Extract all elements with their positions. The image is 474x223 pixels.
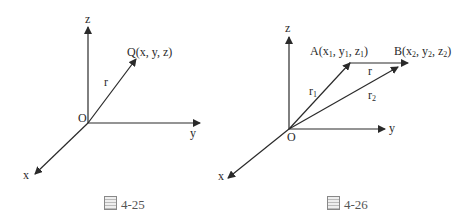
y-axis-label: y bbox=[190, 127, 196, 139]
z-axis-label: z bbox=[85, 13, 90, 25]
origin-label: O bbox=[287, 131, 296, 143]
z-axis-label: z bbox=[285, 22, 290, 34]
vector-r2-label: r2 bbox=[368, 89, 376, 105]
vector-r-label: r bbox=[104, 76, 108, 88]
vector-r1-label: r1 bbox=[309, 85, 317, 101]
figure-icon bbox=[327, 196, 340, 210]
point-b-label: B(x2, y2, z2) bbox=[394, 45, 451, 61]
axes-drawing bbox=[0, 0, 474, 223]
figure-4-25-axes bbox=[35, 27, 200, 174]
x-axis-label: x bbox=[23, 169, 29, 181]
diagram-canvas: z Q(x, y, z) r O y x 4-25 z A(x1, y1, z1… bbox=[0, 0, 474, 223]
vector-r-label: r bbox=[368, 65, 372, 77]
origin-label: O bbox=[78, 112, 87, 124]
figure-icon bbox=[104, 196, 117, 210]
figure-caption: 4-25 bbox=[104, 196, 145, 212]
point-q-label: Q(x, y, z) bbox=[127, 46, 172, 58]
y-axis-label: y bbox=[389, 122, 395, 134]
x-axis-label: x bbox=[218, 170, 224, 182]
point-a-label: A(x1, y1, z1) bbox=[310, 45, 368, 61]
figure-caption: 4-26 bbox=[327, 196, 368, 212]
